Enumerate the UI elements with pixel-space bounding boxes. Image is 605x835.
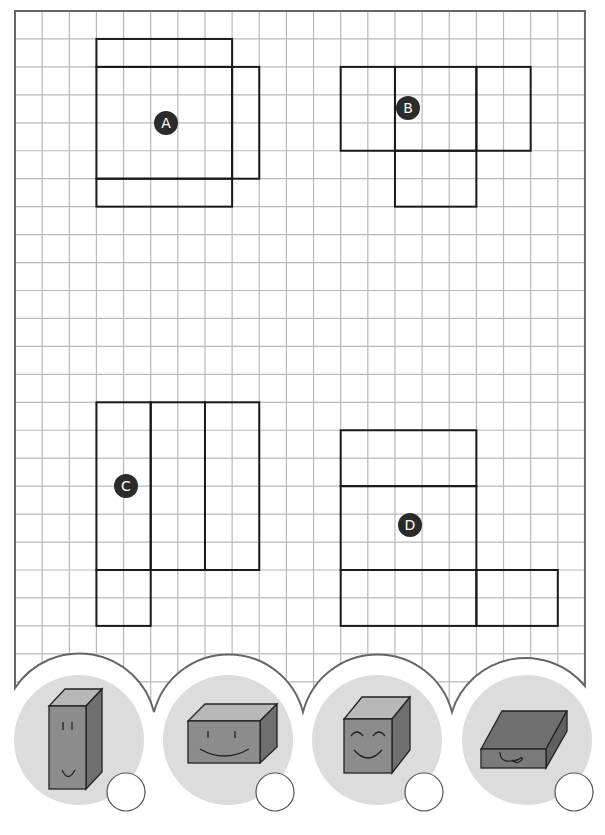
graph-paper-grid — [15, 11, 585, 760]
net-b: B — [341, 67, 531, 207]
net-label-badge: D — [398, 513, 422, 537]
net-face — [96, 179, 232, 207]
net-label: D — [405, 517, 416, 533]
net-face — [96, 39, 232, 67]
net-label: B — [403, 100, 413, 116]
net-label-badge: B — [396, 96, 420, 120]
worksheet: ABCD — [0, 0, 605, 835]
worksheet-canvas: ABCD — [0, 0, 605, 835]
choice-cube — [312, 675, 443, 811]
choice-tall-box — [14, 675, 145, 811]
net-label-badge: A — [154, 111, 178, 135]
net-label: C — [121, 478, 131, 494]
answer-circle[interactable] — [405, 773, 443, 811]
choice-flat-box — [462, 675, 593, 811]
grid-border — [15, 11, 585, 712]
net-label: A — [161, 115, 171, 131]
wide-box-icon — [188, 704, 277, 763]
choice-wide-box — [163, 675, 294, 811]
net-label-badge: C — [114, 474, 138, 498]
answer-choices — [14, 675, 593, 811]
answer-circle[interactable] — [256, 773, 294, 811]
answer-circle[interactable] — [107, 773, 145, 811]
tall-box-icon — [49, 689, 102, 789]
cube-nets: ABCD — [96, 39, 557, 626]
answer-circle[interactable] — [555, 773, 593, 811]
cube-icon — [344, 697, 410, 773]
